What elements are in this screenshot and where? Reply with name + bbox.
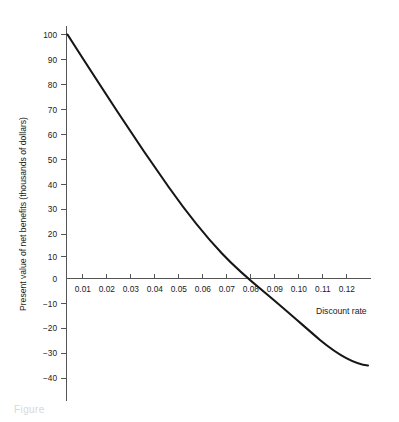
y-tick-label-neg20: −20: [43, 323, 57, 333]
figure-caption: Figure: [14, 404, 45, 415]
x-tick-label-001: 0.01: [75, 284, 92, 294]
y-tick-label-100: 100: [43, 30, 57, 40]
x-tick-label-004: 0.04: [147, 284, 164, 294]
y-tick-label-neg30: −30: [43, 348, 57, 358]
y-tick-label-20: 20: [48, 229, 58, 239]
y-tick-label-0: 0: [52, 274, 57, 284]
x-axis-title: Discount rate: [316, 306, 367, 316]
y-tick-label-50: 50: [48, 155, 58, 165]
x-axis-tick-labels: 0.01 0.02 0.03 0.04 0.05 0.06 0.07 0.08 …: [75, 284, 356, 294]
y-tick-label-neg10: −10: [43, 299, 57, 309]
x-tick-label-012: 0.12: [339, 284, 356, 294]
x-tick-label-010: 0.10: [291, 284, 308, 294]
npv-vs-discount-rate-chart: 100 90 80 70 60 50 40 30 20 10 0 −10 −20…: [0, 0, 399, 422]
x-tick-label-011: 0.11: [315, 284, 331, 294]
x-tick-label-003: 0.03: [123, 284, 140, 294]
figure-container: 100 90 80 70 60 50 40 30 20 10 0 −10 −20…: [0, 0, 399, 422]
y-tick-label-70: 70: [48, 105, 58, 115]
y-tick-label-90: 90: [48, 55, 58, 65]
y-tick-label-30: 30: [48, 204, 58, 214]
x-tick-label-002: 0.02: [99, 284, 116, 294]
y-axis-ticks: [61, 35, 67, 379]
y-axis-tick-labels: 100 90 80 70 60 50 40 30 20 10 0 −10 −20…: [43, 30, 57, 384]
x-tick-label-006: 0.06: [195, 284, 212, 294]
x-tick-label-009: 0.09: [267, 284, 284, 294]
x-axis-ticks: [83, 274, 347, 279]
x-tick-label-005: 0.05: [171, 284, 188, 294]
y-tick-label-80: 80: [48, 80, 58, 90]
y-tick-label-40: 40: [48, 180, 58, 190]
y-axis-title: Present value of net benefits (thousands…: [18, 117, 28, 311]
y-tick-label-10: 10: [48, 252, 58, 262]
x-tick-label-007: 0.07: [219, 284, 236, 294]
y-tick-label-60: 60: [48, 130, 58, 140]
y-tick-label-neg40: −40: [43, 373, 57, 383]
